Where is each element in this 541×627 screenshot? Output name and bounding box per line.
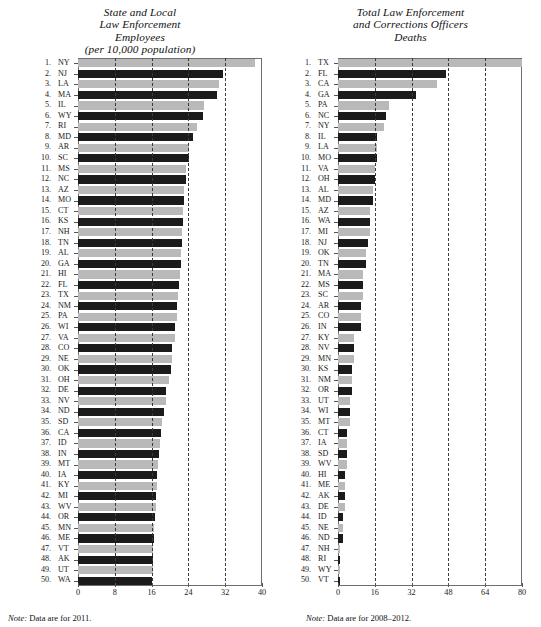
x-tickmark-64 [485, 583, 486, 587]
bar-row [78, 575, 262, 586]
category-rank: 37. [30, 438, 51, 449]
category-label-ia: 37.IA [290, 438, 338, 449]
bar-ar [338, 302, 361, 310]
bar-hi [338, 471, 345, 479]
bar-hi [78, 270, 180, 278]
bar-row [338, 491, 522, 502]
category-rank: 50. [290, 575, 311, 586]
category-label-ma: 21.MA [290, 269, 338, 280]
category-label-ky: 41.KY [30, 480, 78, 491]
category-label-pa: 25.PA [30, 311, 78, 322]
category-rank: 29. [290, 354, 311, 365]
category-rank: 44. [290, 512, 311, 523]
bar-nh [78, 228, 182, 236]
x-tick-label-40: 40 [258, 588, 266, 597]
bar-me [78, 534, 154, 542]
bar-wv [78, 503, 156, 511]
gridline-32 [225, 58, 226, 586]
category-label-fl: 2.FL [290, 69, 338, 80]
category-label-ma: 4.MA [30, 90, 78, 101]
x-tickmark-48 [448, 583, 449, 587]
category-rank: 30. [30, 364, 51, 375]
right-note-text: Data are for 2008–2012. [325, 613, 411, 623]
bar-ri [338, 556, 340, 564]
category-label-sd: 35.SD [30, 417, 78, 428]
bar-la [338, 144, 377, 152]
category-rank: 14. [290, 195, 311, 206]
category-rank: 13. [30, 185, 51, 196]
bar-row [338, 523, 522, 534]
bar-ks [338, 365, 352, 373]
bar-wa [338, 218, 370, 226]
bar-ky [78, 482, 157, 490]
category-rank: 4. [30, 90, 51, 101]
bar-row [338, 238, 522, 249]
gridline-48 [448, 58, 449, 586]
left-chart-plot-area [78, 58, 262, 586]
category-rank: 28. [30, 343, 51, 354]
right-chart-bars [338, 58, 522, 586]
category-label-fl: 22.FL [30, 280, 78, 291]
bar-row [78, 438, 262, 449]
bar-row [338, 79, 522, 90]
x-tickmark-0 [78, 583, 79, 587]
category-label-ca: 3.CA [290, 79, 338, 90]
category-rank: 27. [290, 333, 311, 344]
category-label-or: 32.OR [290, 385, 338, 396]
category-label-wi: 26.WI [30, 322, 78, 333]
x-tickmark-16 [375, 583, 376, 587]
bar-row [78, 417, 262, 428]
category-rank: 13. [290, 185, 311, 196]
x-tickmark-80 [522, 583, 523, 587]
bar-mo [78, 196, 184, 204]
bar-row [78, 533, 262, 544]
bar-row [78, 100, 262, 111]
category-rank: 38. [290, 449, 311, 460]
bar-ca [78, 429, 161, 437]
bar-row [78, 523, 262, 534]
category-label-vt: 50.VT [290, 575, 338, 586]
category-label-nm: 24.NM [30, 301, 78, 312]
bar-sd [78, 418, 162, 426]
bar-wi [338, 408, 350, 416]
bar-row [338, 364, 522, 375]
category-rank: 36. [290, 428, 311, 439]
bar-row [338, 417, 522, 428]
category-rank: 32. [290, 385, 311, 396]
category-label-la: 3.LA [30, 79, 78, 90]
bar-row [78, 121, 262, 132]
category-label-mi: 42.MI [30, 491, 78, 502]
category-label-ne: 45.NE [290, 523, 338, 534]
category-label-ok: 30.OK [30, 364, 78, 375]
bar-row [78, 132, 262, 143]
left-title-line-4: (per 10,000 population) [0, 43, 280, 55]
category-rank: 19. [290, 248, 311, 259]
category-label-ga: 20.GA [30, 259, 78, 270]
category-label-il: 8.IL [290, 132, 338, 143]
category-rank: 47. [290, 544, 311, 555]
category-rank: 5. [290, 100, 311, 111]
bar-row [78, 470, 262, 481]
bar-mi [78, 492, 156, 500]
category-label-wi: 34.WI [290, 406, 338, 417]
right-title-line-1: Total Law Enforcement [280, 6, 541, 18]
x-tick-label-8: 8 [113, 588, 117, 597]
bar-row [338, 280, 522, 291]
left-chart-title: State and Local Law Enforcement Employee… [0, 0, 280, 56]
left-title-line-1: State and Local [0, 6, 280, 18]
category-rank: 11. [290, 164, 311, 175]
category-rank: 23. [290, 290, 311, 301]
bar-row [78, 248, 262, 259]
bar-tn [78, 239, 182, 247]
bar-row [338, 248, 522, 259]
bar-pa [338, 101, 389, 109]
x-tick-label-16: 16 [371, 588, 379, 597]
category-label-nh: 47.NH [290, 544, 338, 555]
bar-row [338, 428, 522, 439]
category-label-wa: 16.WA [290, 216, 338, 227]
bar-mn [338, 355, 354, 363]
category-rank: 26. [30, 322, 51, 333]
bar-row [338, 259, 522, 270]
category-label-in: 38.IN [30, 449, 78, 460]
category-label-nj: 2.NJ [30, 69, 78, 80]
